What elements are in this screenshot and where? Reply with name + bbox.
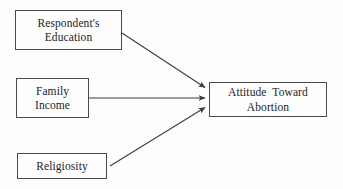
- diagram-canvas: Respondent's Education Family Income Rel…: [0, 0, 343, 189]
- node-respondents-education: Respondent's Education: [15, 10, 122, 50]
- node-label: Religiosity: [34, 159, 90, 173]
- node-label: Attitude Toward Abortion: [226, 85, 310, 113]
- node-family-income: Family Income: [16, 78, 89, 118]
- node-label: Family Income: [33, 84, 72, 112]
- node-attitude-toward-abortion: Attitude Toward Abortion: [209, 82, 327, 117]
- edge-education-to-outcome: [122, 33, 205, 88]
- node-religiosity: Religiosity: [17, 153, 107, 179]
- edge-religiosity-to-outcome: [110, 108, 205, 167]
- node-label: Respondent's Education: [35, 16, 101, 44]
